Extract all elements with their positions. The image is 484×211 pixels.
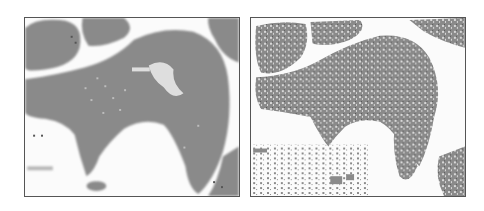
right-segmentation-image	[251, 18, 465, 196]
left-segmentation-image	[25, 18, 239, 196]
left-segmentation-panel	[24, 17, 240, 197]
right-segmentation-panel	[250, 17, 466, 197]
